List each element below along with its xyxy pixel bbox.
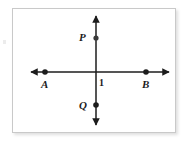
point-a-label: A	[41, 79, 48, 90]
point-q-dot	[93, 102, 99, 108]
point-p-label: P	[79, 32, 86, 43]
point-q-label: Q	[79, 100, 87, 111]
point-b-label: B	[142, 79, 149, 90]
origin-unit-label: 1	[99, 78, 104, 88]
axes-and-points	[0, 0, 189, 143]
figure-root: P Q A B 1	[0, 0, 189, 143]
point-b-dot	[143, 69, 149, 75]
point-a-dot	[42, 69, 48, 75]
point-p-dot	[93, 35, 98, 40]
